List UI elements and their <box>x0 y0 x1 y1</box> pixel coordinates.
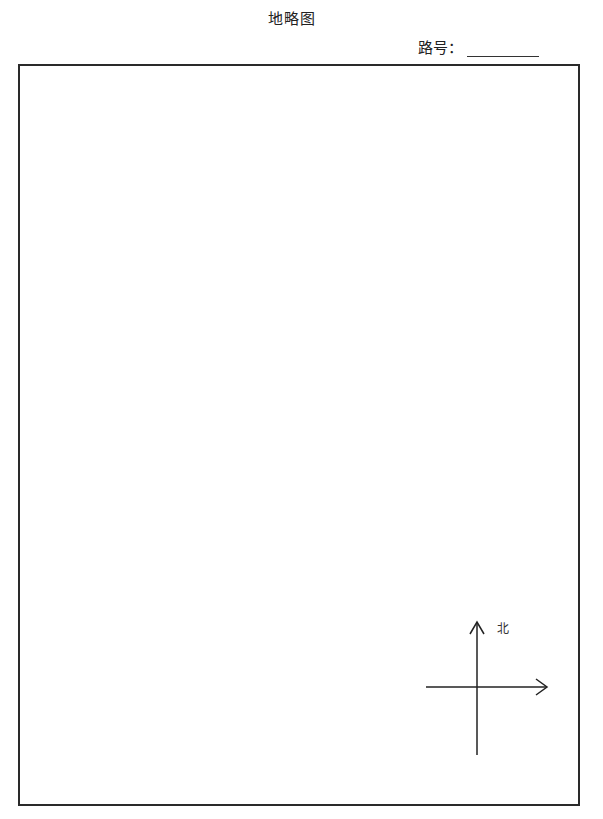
north-label: 北 <box>497 619 509 636</box>
road-number-field: 路号： <box>418 36 539 57</box>
north-arrow-compass-icon <box>420 612 560 762</box>
page-title: 地略图 <box>268 7 316 28</box>
compass: 北 <box>420 612 560 762</box>
road-number-label: 路号： <box>418 36 463 57</box>
road-number-blank[interactable] <box>467 40 539 57</box>
